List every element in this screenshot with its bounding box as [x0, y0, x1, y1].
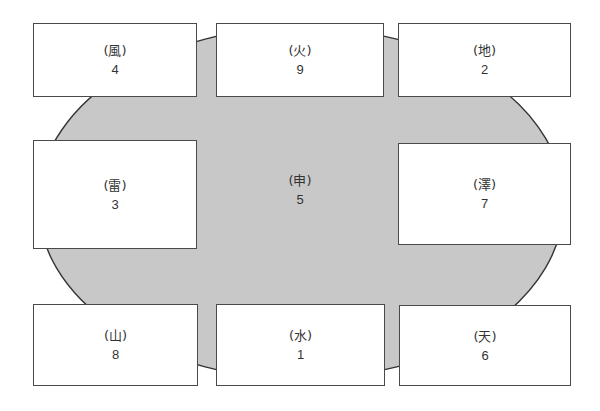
trigram-label: (山)	[104, 327, 127, 344]
box-fire: (火) 9	[216, 23, 384, 97]
trigram-label: (火)	[288, 42, 311, 59]
box-heaven: (天) 6	[399, 305, 571, 386]
box-number: 9	[296, 61, 303, 78]
trigram-label: (地)	[473, 42, 496, 59]
box-number: 3	[111, 196, 118, 213]
trigram-label: (雷)	[103, 177, 126, 194]
box-lake: (澤) 7	[398, 143, 571, 245]
box-number: 2	[481, 61, 488, 78]
box-mountain: (山) 8	[33, 304, 198, 386]
box-water: (水) 1	[216, 304, 385, 386]
box-number: 7	[481, 195, 488, 212]
center-cell: (申) 5	[250, 172, 350, 208]
trigram-label: (澤)	[473, 176, 496, 193]
box-number: 4	[111, 61, 118, 78]
trigram-label: (天)	[473, 328, 496, 345]
trigram-label: (水)	[289, 327, 312, 344]
box-number: 1	[297, 346, 304, 363]
box-number: 6	[481, 347, 488, 364]
box-earth: (地) 2	[398, 23, 571, 97]
box-thunder: (雷) 3	[33, 140, 197, 249]
trigram-label: (風)	[103, 42, 126, 59]
box-number: 8	[112, 346, 119, 363]
bagua-diagram: (申) 5 (風) 4 (火) 9 (地) 2 (雷) 3 (澤) 7 (山) …	[0, 0, 600, 411]
center-trigram-label: (申)	[288, 172, 311, 189]
box-wind: (風) 4	[33, 23, 197, 97]
center-number: 5	[296, 191, 303, 208]
